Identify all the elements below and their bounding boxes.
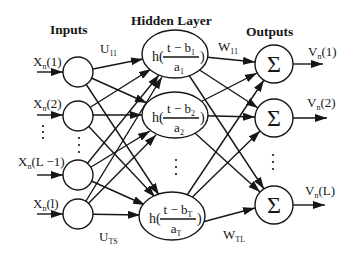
outputs-title: Outputs xyxy=(246,24,293,39)
sigma-icon: Σ xyxy=(267,51,281,77)
input-nodes-ellipsis xyxy=(78,137,80,153)
output-nodes-ellipsis xyxy=(272,154,274,170)
input-layer xyxy=(63,57,93,229)
input-node-2 xyxy=(63,101,93,131)
hidden-nodes-ellipsis xyxy=(175,159,177,175)
sigma-icon: Σ xyxy=(267,192,281,218)
output-label-1: Vn(1) xyxy=(308,44,337,61)
sigma-icon: Σ xyxy=(267,105,281,131)
input-feed-arrows xyxy=(37,72,63,214)
inputs-title: Inputs xyxy=(50,22,88,37)
neural-network-diagram: Inputs Hidden Layer Outputs xyxy=(0,0,357,257)
hidden-node-2: h( t − b2 a2 ) xyxy=(142,92,208,138)
input-label-4: Xn(l) xyxy=(33,196,59,213)
output-node-1: Σ xyxy=(255,45,293,83)
output-label-3: Vn(L) xyxy=(305,183,335,200)
hidden-node-1: h( t − b1 a1 ) xyxy=(142,30,208,78)
input-node-4 xyxy=(63,199,93,229)
hidden-layer-title: Hidden Layer xyxy=(131,13,212,28)
input-node-1 xyxy=(63,57,93,87)
weight-label-wtl: WTL xyxy=(223,227,245,244)
hidden-close-3: ) xyxy=(197,211,202,227)
input-label-1: Xn(1) xyxy=(33,54,62,71)
hidden-close-2: ) xyxy=(200,110,205,126)
hidden-numerator-1: t − b1 xyxy=(167,40,195,57)
input-labels-ellipsis xyxy=(42,125,44,139)
output-label-2: Vn(2) xyxy=(307,95,336,112)
hidden-func-3: h( xyxy=(149,211,161,227)
output-node-2: Σ xyxy=(255,99,293,137)
input-label-2: Xn(2) xyxy=(33,96,62,113)
hidden-node-3: h( t − bT aT ) xyxy=(139,192,205,240)
input-node-3 xyxy=(63,160,93,190)
input-hidden-edges xyxy=(78,59,162,215)
hidden-numerator-2: t − b2 xyxy=(167,101,195,118)
weight-label-w11: W11 xyxy=(218,39,238,56)
weight-label-uts: UTS xyxy=(99,229,118,246)
hidden-close-1: ) xyxy=(200,49,205,65)
output-node-3: Σ xyxy=(255,186,293,224)
hidden-func-1: h( xyxy=(152,49,164,65)
input-label-3: Xn(L −1) xyxy=(18,154,65,171)
hidden-func-2: h( xyxy=(152,110,164,126)
weight-label-u11: U11 xyxy=(100,41,117,58)
